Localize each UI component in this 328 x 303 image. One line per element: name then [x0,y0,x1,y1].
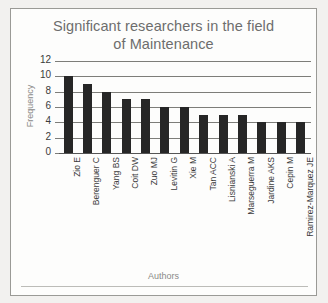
bar-slot [117,61,136,153]
y-axis-tick-label: 2 [25,131,51,142]
y-axis-tick-label: 12 [25,54,51,65]
bar-slot [175,61,194,153]
x-axis-tick-label: Levitin G [169,157,179,191]
plot-area: 024681012 Zio EBerenguer CYang BSCoit DW… [59,61,311,161]
bar-slot [233,61,252,153]
bar-slot [253,61,272,153]
bar-series [59,61,311,153]
chart-title-line-2: of Maintenance [11,35,316,53]
bar[interactable] [122,99,131,153]
chart-figure: Significant researchers in the field of … [10,8,317,296]
bar[interactable] [219,115,228,153]
x-axis-tick-label: Jardine AKS [266,157,276,204]
bar[interactable] [102,92,111,153]
y-axis-tick-label: 8 [25,85,51,96]
bar-slot [195,61,214,153]
y-axis-tick-label: 6 [25,100,51,111]
x-axis-tick-label: Marseguerra M [246,157,256,215]
bar[interactable] [83,84,92,153]
y-axis-tick-label: 4 [25,115,51,126]
chart-title: Significant researchers in the field of … [11,17,316,53]
bar[interactable] [180,107,189,153]
bar-slot [214,61,233,153]
bar[interactable] [238,115,247,153]
bar[interactable] [257,122,266,153]
bar[interactable] [277,122,286,153]
x-axis-tick-label: Coit DW [130,157,140,189]
bar-slot [78,61,97,153]
y-axis-tick-label: 10 [25,69,51,80]
x-axis-label: Authors [11,271,316,281]
bar[interactable] [160,107,169,153]
bar-slot [137,61,156,153]
bar-slot [59,61,78,153]
y-axis-tick-label: 0 [25,146,51,157]
bar-slot [156,61,175,153]
bar[interactable] [199,115,208,153]
x-axis-tick-label: Cepin M [285,157,295,189]
x-axis-tick-label: Tan ACC [208,157,218,191]
bar[interactable] [141,99,150,153]
bar[interactable] [296,122,305,153]
chart-title-line-1: Significant researchers in the field [11,17,316,35]
x-axis-tick-label: Berenguer C [91,157,101,205]
bar-slot [292,61,311,153]
x-axis-line [59,153,311,154]
bar[interactable] [64,76,73,153]
bar-slot [272,61,291,153]
x-axis-tick-label: Ramirez-Marquez JE [305,157,315,237]
x-axis-tick-label: Yang BS [111,157,121,190]
x-axis-tick-label: Xie M [188,157,198,179]
bottom-rule [21,286,308,287]
bar-slot [98,61,117,153]
x-axis-tick-label: Lisnianski A [227,157,237,202]
x-axis-tick-label: Zio E [72,157,82,177]
x-axis-tick-label: Zuo MJ [149,157,159,185]
